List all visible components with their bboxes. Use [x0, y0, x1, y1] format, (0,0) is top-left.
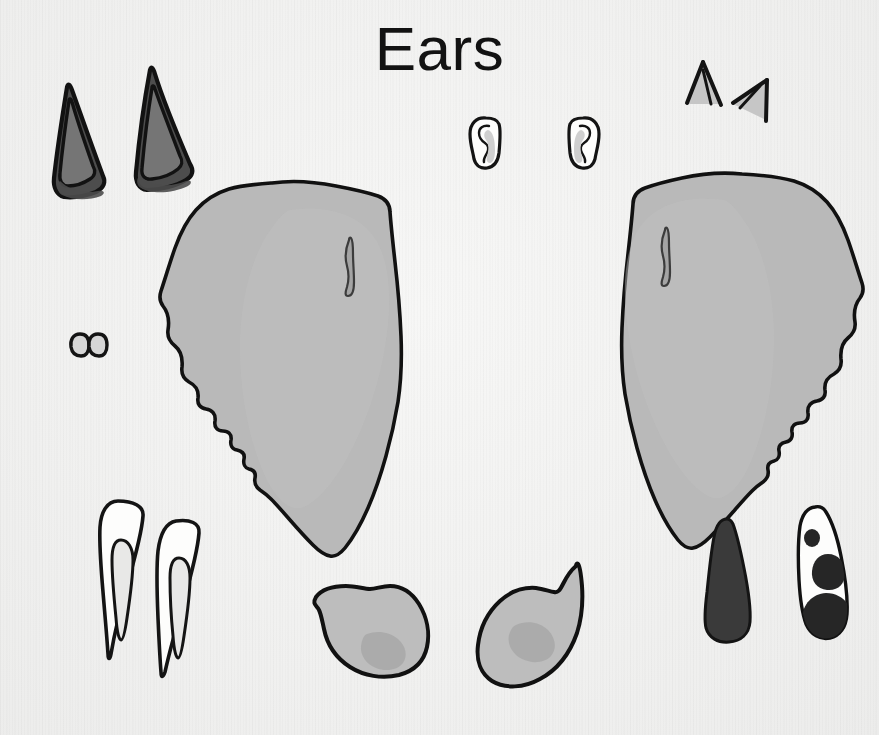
teardrop-ear-left [314, 586, 428, 677]
ear-study-sheet: Ears [0, 0, 879, 735]
tiny-ear-right [89, 334, 107, 356]
large-ear-left [160, 182, 401, 557]
spotted-drop-ear [798, 507, 852, 643]
angular-ear-left [686, 62, 722, 105]
artboard [0, 0, 879, 735]
tiny-ear-left [71, 334, 89, 356]
pointed-ear-right [136, 68, 192, 193]
human-ear-left [470, 118, 500, 168]
pointed-ear-left [54, 85, 104, 200]
long-ear-left [100, 501, 143, 659]
ear-drawings [0, 0, 879, 735]
long-ear-right [157, 521, 199, 677]
angular-ear-right [733, 80, 767, 121]
teardrop-ear-right [478, 564, 583, 687]
human-ear-right [569, 118, 599, 168]
large-ear-right [622, 173, 863, 548]
